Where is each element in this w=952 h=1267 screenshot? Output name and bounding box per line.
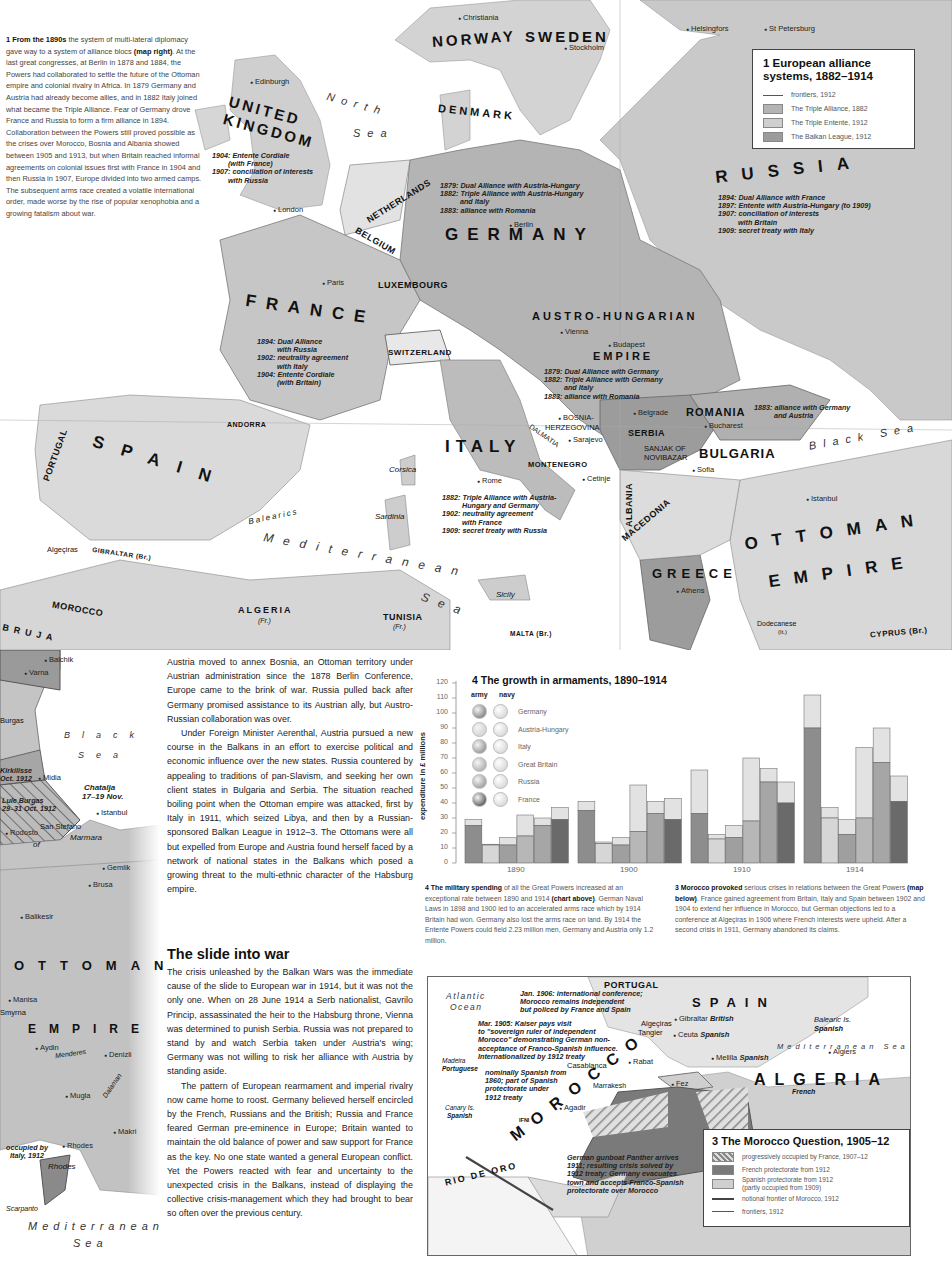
label-albania: ALBANIA bbox=[624, 483, 634, 527]
bar-navy-france bbox=[665, 799, 682, 820]
note-austria-alliances: 1879: Dual Alliance with Germany1882: Tr… bbox=[544, 368, 663, 401]
y-tick-label: 100 bbox=[432, 708, 448, 715]
bar-navy-france bbox=[552, 808, 569, 820]
y-tick-label: 40 bbox=[432, 798, 448, 805]
morocco-legend: 3 The Morocco Question, 1905–12 progress… bbox=[703, 1129, 910, 1227]
y-tick-label: 0 bbox=[432, 858, 448, 865]
label-sanjak-2: NOVIBAZAR bbox=[644, 453, 687, 462]
label-romania: ROMANIA bbox=[686, 406, 746, 418]
bar-navy-austria-hungary bbox=[821, 808, 838, 819]
city-gemlik: Gemlik bbox=[102, 863, 130, 872]
y-tick-label: 10 bbox=[432, 843, 448, 850]
city-sofia: Sofia bbox=[692, 465, 714, 474]
island-corsica: Corsica bbox=[389, 465, 416, 474]
label-lule-burgas-date: 29–31 Oct. 1912 bbox=[2, 805, 56, 813]
island-scarpanto: Scarpanto bbox=[6, 1205, 38, 1212]
city-denizli: Denizli bbox=[104, 1050, 132, 1059]
city-algeciras: Algeçiras bbox=[47, 545, 78, 554]
city-brusa: Brusa bbox=[88, 880, 113, 889]
bar-army-germany bbox=[804, 728, 821, 863]
city-algeciras-morocco: Algeçiras bbox=[641, 1019, 672, 1028]
label-sanjak-1: SANJAK OF bbox=[644, 444, 686, 453]
bar-navy-france bbox=[891, 776, 908, 802]
heading-slide-into-war: The slide into war bbox=[167, 946, 289, 962]
city-sarajevo: Sarajevo bbox=[568, 435, 603, 444]
label-madeira: Madeira bbox=[442, 1057, 465, 1064]
map1-legend-title-1: 1 European alliance bbox=[763, 57, 904, 70]
note-france-alliances: 1894: Dual Alliance with Russia1902: neu… bbox=[257, 338, 348, 387]
note-germany-alliances: 1879: Dual Alliance with Austria-Hungary… bbox=[440, 182, 584, 215]
chart-legend-italy: Italy bbox=[472, 739, 531, 754]
city-edinburgh: Edinburgh bbox=[250, 77, 289, 86]
bar-army-france bbox=[778, 803, 795, 863]
legend-triple-entente: The Triple Entente, 1912 bbox=[763, 116, 904, 130]
bar-army-great-britain bbox=[517, 836, 534, 863]
note-jan-1906: Jan. 1906: international conference;Moro… bbox=[520, 990, 643, 1015]
city-bucharest: Bucharest bbox=[704, 421, 743, 430]
label-serbia: SERBIA bbox=[628, 428, 665, 438]
city-rodosto: Rodosto bbox=[5, 828, 38, 837]
chart-legend-austria-hungary: Austria-Hungary bbox=[472, 722, 569, 737]
label-ottoman-inset: OTTOMAN bbox=[14, 958, 177, 973]
label-chatalja: Chatalja bbox=[84, 784, 115, 792]
sea-atlantic-1: Atlantic bbox=[446, 991, 486, 1001]
label-madeira-owner: Portuguese bbox=[442, 1065, 478, 1072]
label-balearic: Balearic Is. bbox=[814, 1015, 851, 1024]
city-san-stefano: San Stefano bbox=[40, 822, 81, 831]
label-algeria-french: French bbox=[792, 1088, 815, 1095]
navy-swatch-icon bbox=[493, 704, 508, 719]
label-empire-inset: EMPIRE bbox=[28, 1022, 152, 1036]
city-st-petersburg: St Petersburg bbox=[764, 24, 815, 33]
note-agadir: German gunboat Panther arrives1911; resu… bbox=[567, 1154, 684, 1195]
label-bosnia-2: HERZEGOVINA bbox=[545, 423, 600, 432]
label-kirkilisse-date: Oct. 1912 bbox=[0, 775, 32, 783]
city-helsingfors: Helsingfors bbox=[686, 24, 729, 33]
army-swatch-icon bbox=[472, 792, 487, 807]
sea-mediterranean-inset-1: Mediterranean bbox=[28, 1220, 164, 1232]
label-bulgaria: BULGARIA bbox=[699, 446, 776, 461]
label-austro-hungarian: AUSTRO-HUNGARIAN bbox=[532, 310, 697, 322]
bar-army-italy bbox=[726, 838, 743, 864]
y-tick-label: 80 bbox=[432, 738, 448, 745]
city-fez: Fez bbox=[671, 1079, 689, 1088]
bar-army-italy bbox=[839, 835, 856, 864]
city-berlin: Berlin bbox=[509, 220, 533, 229]
bar-navy-germany bbox=[804, 695, 821, 728]
bar-army-germany bbox=[578, 811, 595, 864]
map1-legend: 1 European alliance systems, 1882–1914 f… bbox=[752, 49, 915, 149]
paragraph-1: Austria moved to annex Bosnia, an Ottoma… bbox=[167, 655, 413, 726]
y-tick-label: 20 bbox=[432, 828, 448, 835]
y-tick-label: 60 bbox=[432, 768, 448, 775]
legend-header-army: army bbox=[471, 691, 488, 698]
bar-navy-italy bbox=[500, 838, 517, 846]
city-istanbul-inset: Istanbul bbox=[96, 808, 127, 817]
city-paris: Paris bbox=[322, 278, 344, 287]
chart-legend-russia: Russia bbox=[472, 774, 539, 789]
main-article-part1: Austria moved to annex Bosnia, an Ottoma… bbox=[167, 655, 413, 896]
label-balearic-owner: Spanish bbox=[814, 1024, 843, 1033]
legend-balkan-league: The Balkan League, 1912 bbox=[763, 130, 904, 144]
morocco-legend-title: 3 The Morocco Question, 1905–12 bbox=[712, 1135, 901, 1147]
legend-notional-frontier: notional frontier of Morocco, 1912 bbox=[712, 1192, 901, 1205]
city-stockholm: Stockholm bbox=[564, 43, 604, 52]
city-midia: Midia bbox=[38, 773, 61, 782]
y-tick-label: 120 bbox=[432, 678, 448, 685]
label-andorra: ANDORRA bbox=[227, 421, 266, 428]
legend-header-navy: navy bbox=[499, 691, 515, 698]
paragraph-3: The crisis unleashed by the Balkan Wars … bbox=[167, 965, 413, 1079]
chart-legend-germany: Germany bbox=[472, 704, 547, 719]
bar-navy-russia bbox=[760, 769, 777, 783]
city-christiania: Christiania bbox=[458, 13, 498, 22]
label-algeria-morocco: ALGERIA bbox=[754, 1071, 889, 1089]
label-canary: Canary Is. bbox=[445, 1104, 475, 1111]
note-uk-alliances: 1904: Entente Cordiale (with France)1907… bbox=[212, 152, 313, 185]
note-mar-1905: Mar. 1905: Kaiser pays visitto "sovereig… bbox=[478, 1020, 618, 1061]
legend-progressively-occupied: progressively occupied by France, 1907–1… bbox=[712, 1150, 901, 1163]
note-ifni: nominally Spanish from1860; part of Span… bbox=[485, 1069, 566, 1102]
island-rhodes: Rhodes bbox=[48, 1162, 76, 1171]
label-tunisia: TUNISIA bbox=[383, 612, 423, 622]
city-rome: Rome bbox=[477, 476, 502, 485]
label-algeria-sub: (Fr.) bbox=[258, 617, 271, 624]
bar-navy-russia bbox=[647, 802, 664, 814]
sea-black-1: Black bbox=[64, 730, 146, 740]
